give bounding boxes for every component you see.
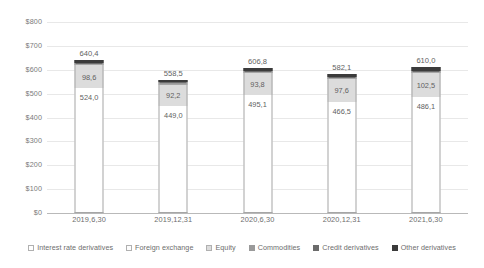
segment-value-label: 495,1 [244, 100, 271, 109]
bar-segment-equity[interactable]: 97,6 [327, 78, 356, 101]
chart-legend: Interest rate derivativesForeign exchang… [0, 243, 484, 252]
legend-label: Foreign exchange [135, 243, 193, 252]
bar-segment-interest[interactable]: 466,5 [327, 102, 356, 213]
bar-segment-equity[interactable]: 98,6 [75, 64, 104, 88]
bar-stack[interactable]: 98,6524,0 [75, 60, 104, 213]
plot-area: 98,6524,0640,492,2449,0558,593,8495,1606… [47, 22, 468, 213]
bar-segment-equity[interactable]: 102,5 [411, 72, 440, 96]
y-axis-tick-label: $700 [26, 42, 42, 50]
bar-segment-interest[interactable]: 524,0 [75, 88, 104, 213]
legend-item[interactable]: Interest rate derivatives [28, 243, 113, 252]
legend-label: Other derivatives [401, 243, 456, 252]
x-axis-tick-label: 2021,6,30 [409, 215, 443, 225]
bar-stack[interactable]: 97,6466,5 [327, 74, 356, 213]
bar-total-label: 640,4 [80, 49, 99, 58]
legend-item[interactable]: Commodities [249, 243, 301, 252]
y-axis-tick-label: $800 [26, 18, 42, 26]
bar-total-label: 558,5 [164, 69, 183, 78]
x-axis-tick-label: 2019,12,31 [154, 215, 192, 225]
segment-value-label: 98,6 [76, 72, 103, 81]
axis-baseline [47, 213, 468, 214]
legend-swatch-icon [313, 245, 319, 251]
x-axis-tick-label: 2019,6,30 [72, 215, 106, 225]
legend-item[interactable]: Equity [206, 243, 235, 252]
segment-value-label: 449,0 [160, 111, 187, 120]
bar-stack[interactable]: 93,8495,1 [243, 68, 272, 213]
stacked-bar-chart: $800$700$600$500$400$300$200$100$0 98,65… [0, 0, 484, 268]
legend-swatch-icon [28, 245, 34, 251]
bar-total-label: 606,8 [248, 57, 267, 66]
legend-swatch-icon [249, 245, 255, 251]
segment-value-label: 93,8 [244, 80, 271, 89]
bar-segment-interest[interactable]: 449,0 [159, 106, 188, 213]
y-axis-tick-label: $200 [26, 161, 42, 169]
bar-stack[interactable]: 92,2449,0 [159, 80, 188, 213]
bar-segment-interest[interactable]: 486,1 [411, 97, 440, 213]
legend-label: Commodities [258, 243, 301, 252]
x-axis-tick-label: 2020,12,31 [323, 215, 361, 225]
segment-value-label: 92,2 [160, 91, 187, 100]
legend-item[interactable]: Foreign exchange [126, 243, 193, 252]
legend-swatch-icon [392, 245, 398, 251]
bar-stack[interactable]: 102,5486,1 [411, 67, 440, 213]
bar-segment-equity[interactable]: 93,8 [243, 72, 272, 94]
segment-value-label: 97,6 [328, 86, 355, 95]
legend-item[interactable]: Other derivatives [392, 243, 456, 252]
gridline [47, 46, 468, 47]
segment-value-label: 524,0 [76, 93, 103, 102]
segment-value-label: 486,1 [412, 102, 439, 111]
bar-segment-equity[interactable]: 92,2 [159, 84, 188, 106]
x-axis-tick-label: 2020,6,30 [241, 215, 275, 225]
y-axis-tick-label: $400 [26, 114, 42, 122]
legend-label: Credit derivatives [322, 243, 378, 252]
segment-value-label: 466,5 [328, 107, 355, 116]
legend-label: Interest rate derivatives [37, 243, 113, 252]
bar-total-label: 610,0 [416, 56, 435, 65]
legend-swatch-icon [126, 245, 132, 251]
gridline [47, 22, 468, 23]
legend-item[interactable]: Credit derivatives [313, 243, 378, 252]
legend-label: Equity [215, 243, 235, 252]
segment-value-label: 102,5 [412, 81, 439, 90]
legend-swatch-icon [206, 245, 212, 251]
y-axis-tick-label: $0 [34, 209, 42, 217]
bar-total-label: 582,1 [332, 63, 351, 72]
y-axis-tick-label: $100 [26, 185, 42, 193]
y-axis: $800$700$600$500$400$300$200$100$0 [0, 22, 42, 213]
y-axis-tick-label: $300 [26, 137, 42, 145]
bar-segment-interest[interactable]: 495,1 [243, 95, 272, 213]
y-axis-tick-label: $600 [26, 66, 42, 74]
y-axis-tick-label: $500 [26, 90, 42, 98]
x-axis: 2019,6,302019,12,312020,6,302020,12,3120… [47, 215, 468, 229]
